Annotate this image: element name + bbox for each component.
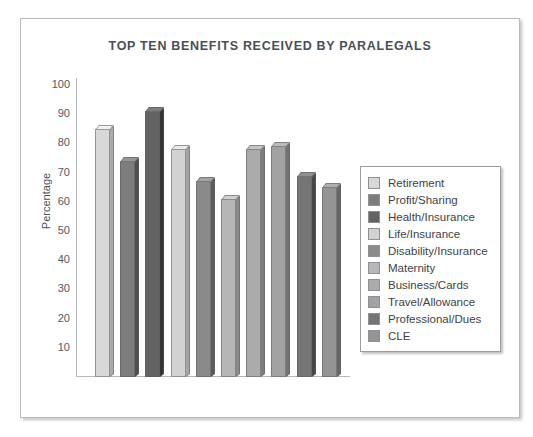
legend-swatch-icon xyxy=(368,330,380,342)
bar-travel-allowance xyxy=(271,146,289,377)
legend-item-label: Profit/Sharing xyxy=(388,194,458,206)
bar-life-insurance xyxy=(171,149,189,377)
legend-item: Disability/Insurance xyxy=(368,242,492,259)
legend-swatch-icon xyxy=(368,228,380,240)
legend-swatch-icon xyxy=(368,245,380,257)
bar-front-face xyxy=(271,146,286,377)
legend-item-label: Retirement xyxy=(388,177,444,189)
legend-item: Profit/Sharing xyxy=(368,191,492,208)
bar-side-face xyxy=(160,108,164,377)
legend-item-label: CLE xyxy=(388,330,410,342)
legend-swatch-icon xyxy=(368,296,380,308)
bar-front-face xyxy=(171,149,186,377)
legend-item: Travel/Allowance xyxy=(368,293,492,310)
bar-side-face xyxy=(135,158,139,377)
y-axis-tick-90: 90 xyxy=(36,107,70,119)
legend-swatch-icon xyxy=(368,211,380,223)
legend-item: Retirement xyxy=(368,174,492,191)
legend-item-label: Health/Insurance xyxy=(388,211,475,223)
legend-item-label: Travel/Allowance xyxy=(388,296,475,308)
bar-top-face xyxy=(297,172,316,177)
legend-item: Business/Cards xyxy=(368,276,492,293)
bar-side-face xyxy=(236,196,240,377)
y-axis-tick-100: 100 xyxy=(36,78,70,90)
bar-side-face xyxy=(337,184,341,377)
y-axis-label: Percentage xyxy=(40,151,52,251)
bar-side-face xyxy=(211,178,215,377)
y-axis-tick-80: 80 xyxy=(36,136,70,148)
legend-swatch-icon xyxy=(368,313,380,325)
y-axis-tick-30: 30 xyxy=(36,282,70,294)
bar-side-face xyxy=(261,146,265,377)
legend-item: Health/Insurance xyxy=(368,208,492,225)
legend-item: Life/Insurance xyxy=(368,225,492,242)
bar-side-face xyxy=(110,126,114,377)
bar-professional-dues xyxy=(297,176,315,377)
chart-legend: RetirementProfit/SharingHealth/Insurance… xyxy=(360,166,501,352)
bar-maternity xyxy=(221,199,239,377)
legend-item: CLE xyxy=(368,327,492,344)
bar-side-face xyxy=(286,143,290,377)
bar-cle xyxy=(322,187,340,377)
bar-retirement xyxy=(95,129,113,377)
bar-front-face xyxy=(297,176,312,377)
bar-front-face xyxy=(145,111,160,377)
legend-swatch-icon xyxy=(368,262,380,274)
chart-screenshot: TOP TEN BENEFITS RECEIVED BY PARALEGALS … xyxy=(0,0,533,437)
legend-item-label: Disability/Insurance xyxy=(388,245,488,257)
y-axis-tick-20: 20 xyxy=(36,312,70,324)
legend-item-label: Maternity xyxy=(388,262,435,274)
bar-health-insurance xyxy=(145,111,163,377)
legend-swatch-icon xyxy=(368,279,380,291)
bar-front-face xyxy=(196,181,211,377)
bar-profit-sharing xyxy=(120,161,138,377)
bar-front-face xyxy=(246,149,261,377)
bar-front-face xyxy=(95,129,110,377)
bar-front-face xyxy=(120,161,135,377)
legend-item-label: Professional/Dues xyxy=(388,313,481,325)
legend-swatch-icon xyxy=(368,194,380,206)
bar-front-face xyxy=(322,187,337,377)
bar-disability-insurance xyxy=(196,181,214,377)
y-axis-tick-10: 10 xyxy=(36,341,70,353)
legend-swatch-icon xyxy=(368,177,380,189)
y-axis-tick-40: 40 xyxy=(36,253,70,265)
bar-side-face xyxy=(312,172,316,377)
bar-side-face xyxy=(186,146,190,377)
bar-series xyxy=(76,60,350,377)
chart-title: TOP TEN BENEFITS RECEIVED BY PARALEGALS xyxy=(21,39,519,53)
bar-front-face xyxy=(221,199,236,377)
bar-business-cards xyxy=(246,149,264,377)
legend-item: Professional/Dues xyxy=(368,310,492,327)
legend-item: Maternity xyxy=(368,259,492,276)
legend-item-label: Business/Cards xyxy=(388,279,469,291)
legend-item-label: Life/Insurance xyxy=(388,228,460,240)
